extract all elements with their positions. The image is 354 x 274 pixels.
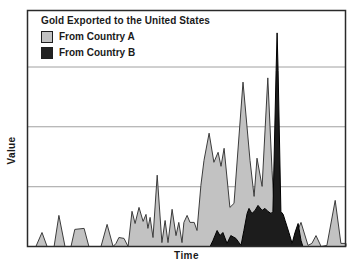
legend-item-country-a: From Country A bbox=[41, 31, 135, 42]
from-country-a-area bbox=[27, 78, 346, 247]
x-axis-label: Time bbox=[27, 250, 346, 261]
legend-swatch-country-b-icon bbox=[41, 47, 53, 59]
chart-figure: Gold Exported to the United States From … bbox=[0, 0, 354, 274]
chart-title: Gold Exported to the United States bbox=[41, 15, 210, 26]
chart-border bbox=[28, 11, 346, 247]
legend-label-country-b: From Country B bbox=[59, 47, 135, 58]
legend-label-country-a: From Country A bbox=[59, 31, 135, 42]
legend-swatch-country-a-icon bbox=[41, 31, 53, 43]
legend-item-country-b: From Country B bbox=[41, 47, 135, 58]
y-axis-label: Value bbox=[6, 111, 19, 191]
